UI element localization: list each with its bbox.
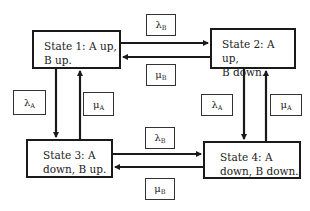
- state-4-box: State 4: A down, B down.: [203, 141, 301, 179]
- rate-label-bottom-lambda: λB: [145, 127, 175, 149]
- rate-label-bottom-mu: μB: [145, 178, 175, 200]
- state-2-line1: State 2: A up,: [222, 37, 294, 65]
- state-2-line2: B down.: [222, 65, 294, 79]
- rate-label-top-mu: μB: [146, 64, 176, 86]
- rate-label-left-mu: μA: [83, 92, 114, 116]
- state-1-box: State 1: A up, B up.: [32, 30, 121, 69]
- state-1-line2: B up.: [44, 53, 119, 67]
- state-4-line1: State 4: A: [220, 150, 299, 164]
- state-3-line2: down, B up.: [43, 162, 111, 176]
- rate-label-right-mu: μA: [270, 94, 302, 116]
- state-4-line2: down, B down.: [220, 164, 299, 178]
- state-3-box: State 3: A down, B up.: [26, 139, 113, 178]
- rate-label-top-lambda: λB: [146, 14, 176, 36]
- state-1-line1: State 1: A up,: [44, 39, 119, 53]
- state-3-line1: State 3: A: [43, 148, 111, 162]
- state-2-box: State 2: A up, B down.: [210, 28, 296, 69]
- rate-label-left-lambda: λA: [13, 90, 46, 115]
- rate-label-right-lambda: λA: [201, 94, 233, 116]
